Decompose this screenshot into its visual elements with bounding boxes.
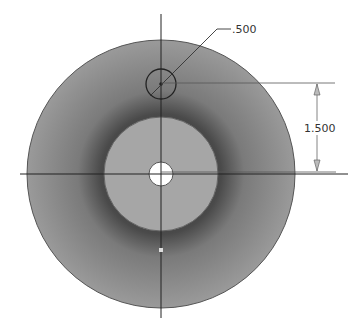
arrow-up-icon (314, 84, 320, 95)
arrow-down-icon (314, 160, 320, 171)
diameter-dimension[interactable]: .500 (232, 23, 257, 36)
sketch-point[interactable] (159, 248, 163, 252)
cad-drawing-canvas: .500 1.500 (0, 0, 354, 329)
distance-dimension[interactable]: 1.500 (304, 122, 336, 135)
